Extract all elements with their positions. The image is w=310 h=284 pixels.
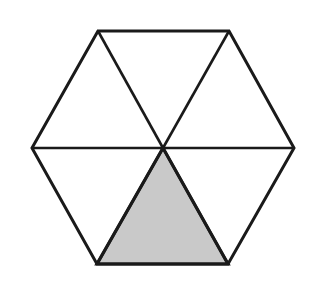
hexagon-figure [0, 0, 310, 284]
hexagon-diagram-svg [0, 0, 310, 284]
